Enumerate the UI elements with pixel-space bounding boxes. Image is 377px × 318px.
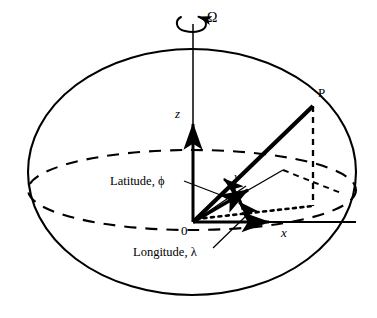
radius-vector-to-P	[193, 106, 313, 222]
z-axis-label: z	[175, 107, 180, 120]
spherical-coordinate-figure: Ω P z y x 0 Latitude, ϕ Longitude, λ	[0, 0, 377, 318]
rotation-rate-label: Ω	[207, 11, 217, 25]
point-p-label: P	[318, 86, 325, 99]
longitude-label: Longitude, λ	[133, 246, 197, 259]
x-axis-label: x	[281, 226, 287, 239]
latitude-label: Latitude, ϕ	[110, 175, 164, 188]
origin-label: 0	[181, 224, 188, 237]
y-axis-label: y	[234, 170, 240, 183]
figure-canvas	[0, 0, 377, 318]
rotation-arrow-icon	[177, 17, 206, 32]
